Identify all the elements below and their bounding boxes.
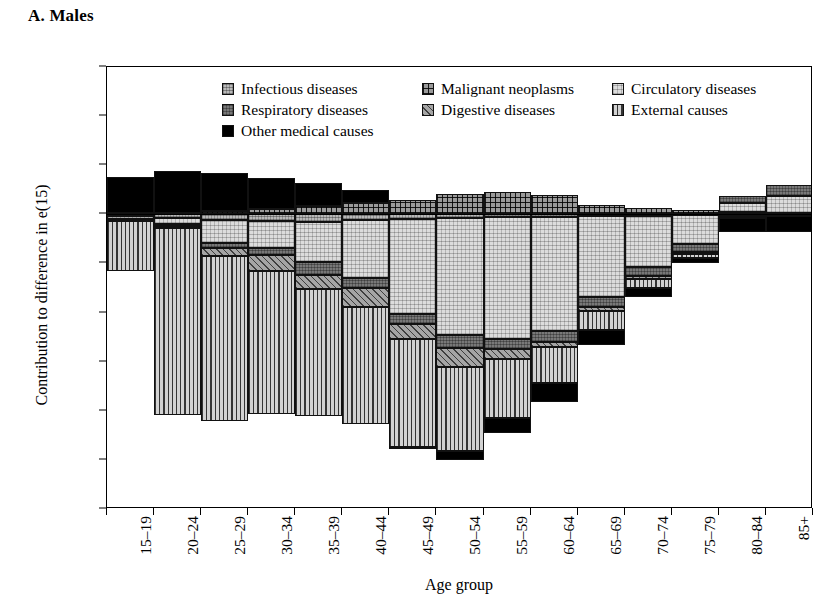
bar-segment-infectious xyxy=(295,214,342,221)
x-tick-label: 70–74 xyxy=(654,516,672,555)
zero-line xyxy=(107,214,811,215)
legend-item-malignant[interactable]: Malignant neoplasms xyxy=(422,80,612,98)
x-tick-mark xyxy=(294,508,295,515)
y-tick-mark xyxy=(99,311,106,312)
x-tick-label: 30–34 xyxy=(278,516,296,555)
y-tick-mark xyxy=(99,508,106,509)
x-tick-mark xyxy=(624,508,625,515)
legend-item-respiratory[interactable]: Respiratory diseases xyxy=(222,101,422,119)
legend-swatch-circulatory-icon xyxy=(612,83,624,95)
legend-label: Respiratory diseases xyxy=(241,101,368,119)
x-tick-label: 25–29 xyxy=(231,516,249,555)
y-tick-mark xyxy=(99,458,106,459)
bar-segment-respiratory xyxy=(248,248,295,255)
legend-swatch-external-icon xyxy=(612,104,624,116)
bar-segment-external xyxy=(201,256,248,421)
bar-segment-external xyxy=(436,367,483,451)
bar-segment-respiratory xyxy=(342,278,389,288)
chart-legend: Infectious diseasesMalignant neoplasmsCi… xyxy=(222,80,787,143)
bar-segment-other xyxy=(436,451,483,460)
bar-segment-external xyxy=(248,271,295,414)
legend-item-infectious[interactable]: Infectious diseases xyxy=(222,80,422,98)
bar-segment-respiratory xyxy=(578,297,625,307)
x-tick-label: 15–19 xyxy=(137,516,155,555)
bar-segment-malignant xyxy=(578,205,625,214)
bar-segment-respiratory xyxy=(625,267,672,276)
page-title: A. Males xyxy=(28,6,94,26)
bar-segment-circulatory xyxy=(248,221,295,249)
x-tick-mark xyxy=(483,508,484,515)
bar-segment-external xyxy=(531,347,578,382)
bar-segment-respiratory xyxy=(436,335,483,348)
y-tick-mark xyxy=(99,213,106,214)
legend-label: External causes xyxy=(631,101,728,119)
bar-segment-circulatory xyxy=(672,215,719,243)
bar-segment-digestive xyxy=(295,275,342,290)
x-tick-label: 40–44 xyxy=(372,516,390,555)
bar-segment-circulatory xyxy=(436,218,483,335)
legend-label: Other medical causes xyxy=(241,122,374,140)
bar-segment-circulatory xyxy=(389,219,436,314)
x-tick-label: 75–79 xyxy=(701,516,719,555)
bar-segment-malignant xyxy=(295,206,342,214)
bar-segment-circulatory xyxy=(719,203,766,213)
y-tick-mark xyxy=(99,262,106,263)
legend-item-digestive[interactable]: Digestive diseases xyxy=(422,101,612,119)
legend-item-other[interactable]: Other medical causes xyxy=(222,122,422,140)
bar-segment-external xyxy=(578,311,625,331)
bar-segment-respiratory xyxy=(531,331,578,342)
bar-segment-respiratory xyxy=(719,196,766,203)
legend-swatch-malignant-icon xyxy=(422,83,434,95)
legend-row: Respiratory diseasesDigestive diseasesEx… xyxy=(222,101,787,119)
bar-segment-circulatory xyxy=(531,217,578,331)
y-tick-mark xyxy=(99,360,106,361)
bar-segment-circulatory xyxy=(766,196,811,214)
x-tick-label: 35–39 xyxy=(325,516,343,555)
bar-segment-respiratory xyxy=(389,314,436,324)
x-tick-mark xyxy=(671,508,672,515)
x-tick-mark xyxy=(200,508,201,515)
bar-segment-digestive xyxy=(484,349,531,359)
y-tick-mark xyxy=(99,66,106,67)
legend-swatch-other-icon xyxy=(222,125,234,137)
x-tick-mark xyxy=(765,508,766,515)
bar-segment-other xyxy=(154,171,201,213)
bar-segment-external xyxy=(484,359,531,418)
legend-item-circulatory[interactable]: Circulatory diseases xyxy=(612,80,787,98)
x-tick-label: 20–24 xyxy=(184,516,202,555)
legend-swatch-infectious-icon xyxy=(222,83,234,95)
bar-segment-circulatory xyxy=(578,216,625,297)
bar-segment-circulatory xyxy=(625,216,672,267)
legend-label: Digestive diseases xyxy=(441,101,555,119)
x-tick-mark xyxy=(812,508,813,515)
x-tick-mark xyxy=(153,508,154,515)
bar-segment-external xyxy=(625,279,672,289)
bar-segment-external xyxy=(295,289,342,416)
legend-row: Other medical causes xyxy=(222,122,787,140)
bar-segment-circulatory xyxy=(201,220,248,243)
x-tick-label: 80–84 xyxy=(748,516,766,555)
bar-segment-external xyxy=(342,307,389,424)
bar-segment-digestive xyxy=(436,348,483,367)
x-tick-label: 50–54 xyxy=(466,516,484,555)
legend-item-external[interactable]: External causes xyxy=(612,101,787,119)
bar-segment-other xyxy=(248,178,295,209)
bar-segment-other xyxy=(295,183,342,207)
bar-segment-external xyxy=(107,221,154,272)
x-tick-mark xyxy=(530,508,531,515)
x-tick-mark xyxy=(388,508,389,515)
bar-segment-malignant xyxy=(389,200,436,215)
bar-segment-other xyxy=(531,383,578,403)
bar-segment-circulatory xyxy=(342,220,389,278)
bar-segment-other xyxy=(672,258,719,263)
bar-segment-malignant xyxy=(436,194,483,215)
x-axis-label: Age group xyxy=(106,576,812,594)
bar-segment-other xyxy=(625,288,672,297)
bar-segment-digestive xyxy=(342,288,389,307)
x-tick-label: 45–49 xyxy=(419,516,437,555)
bar-segment-respiratory xyxy=(484,339,531,350)
x-tick-label: 65–69 xyxy=(607,516,625,555)
bar-segment-other xyxy=(201,173,248,211)
legend-swatch-respiratory-icon xyxy=(222,104,234,116)
bar-segment-respiratory xyxy=(295,262,342,275)
